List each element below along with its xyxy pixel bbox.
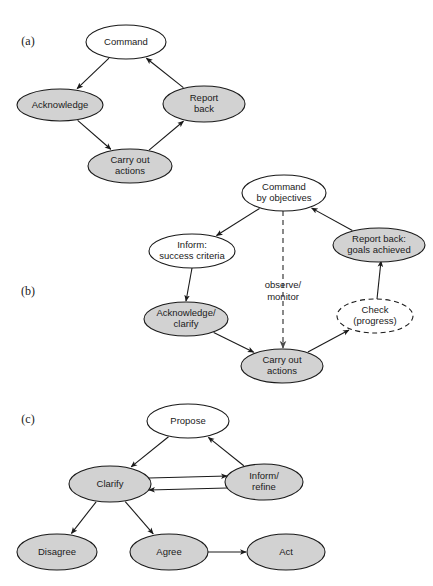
node-label: actions: [115, 165, 145, 176]
node-label: Clarify: [97, 478, 124, 489]
edge-b-report-to-b-command: [312, 208, 353, 230]
edge-c-inform-to-c-propose: [208, 437, 243, 465]
edge-b-inform-to-b-acknow: [186, 268, 192, 301]
node-a-carry[interactable]: Carry outactions: [88, 149, 172, 183]
node-label: back: [194, 103, 214, 114]
node-c-disagree[interactable]: Disagree: [17, 534, 97, 570]
node-b-report[interactable]: Report back:goals achieved: [333, 228, 425, 262]
node-label: Propose: [170, 415, 205, 426]
node-label: Command: [104, 36, 148, 47]
edge-c-inform-to-c-clarify: [149, 488, 227, 490]
node-b-acknow[interactable]: Acknowledge/clarify: [144, 302, 228, 336]
diagram-root: observe/monitor CommandAcknowledgeReport…: [0, 0, 433, 586]
node-c-act[interactable]: Act: [247, 534, 325, 570]
node-b-carry[interactable]: Carry outactions: [241, 349, 323, 383]
node-label: by objectives: [257, 192, 312, 203]
panel-label-b: (b): [21, 284, 35, 298]
node-a-report[interactable]: Reportback: [163, 86, 245, 122]
edge-c-clarify-to-c-disagree: [71, 502, 96, 534]
node-b-command[interactable]: Commandby objectives: [242, 175, 326, 211]
node-label: Command: [262, 181, 306, 192]
edge-b-acknow-to-b-carry: [214, 333, 254, 353]
node-c-inform[interactable]: Inform/refine: [225, 464, 303, 500]
node-b-inform[interactable]: Inform:success criteria: [149, 234, 235, 268]
edge-a-carry-to-a-report: [149, 121, 183, 150]
node-label: success criteria: [159, 250, 225, 261]
node-label: clarify: [174, 318, 199, 329]
edge-b-command-to-b-inform: [217, 208, 260, 235]
edge-label-line: monitor: [267, 291, 299, 302]
edge-label-b-e7: observe/monitor: [265, 279, 302, 302]
edge-a-report-to-a-command: [146, 58, 183, 87]
node-a-command[interactable]: Command: [86, 25, 166, 59]
node-label: Report: [190, 92, 219, 103]
diagram-canvas: observe/monitor CommandAcknowledgeReport…: [0, 0, 433, 586]
edge-a-command-to-a-acknowledge: [77, 58, 109, 88]
node-label: Inform:: [177, 239, 207, 250]
node-c-clarify[interactable]: Clarify: [69, 466, 151, 502]
node-label: (progress): [353, 315, 396, 326]
node-label: Acknowledge: [32, 99, 89, 110]
edge-c-clarify-to-c-agree: [125, 502, 153, 534]
node-label: Inform/: [249, 470, 279, 481]
node-label: goals achieved: [347, 244, 410, 255]
edge-c-clarify-to-c-inform: [149, 476, 227, 478]
node-b-check[interactable]: Check(progress): [337, 299, 413, 333]
node-c-agree[interactable]: Agree: [130, 534, 208, 570]
node-c-propose[interactable]: Propose: [147, 404, 229, 438]
node-label: Act: [279, 546, 293, 557]
node-label: Disagree: [38, 546, 76, 557]
node-label: Agree: [156, 546, 181, 557]
node-label: Carry out: [262, 354, 301, 365]
node-label: refine: [252, 481, 276, 492]
edge-b-carry-to-b-check: [308, 330, 349, 352]
node-label: Check: [362, 304, 389, 315]
edge-a-acknowledge-to-a-carry: [78, 120, 111, 149]
panel-label-a: (a): [21, 34, 34, 48]
edge-b-check-to-b-report: [377, 261, 381, 299]
node-label: Acknowledge/: [156, 307, 216, 318]
edge-label-line: observe/: [265, 279, 302, 290]
node-label: Carry out: [110, 154, 149, 165]
node-label: actions: [267, 365, 297, 376]
node-a-acknowledge[interactable]: Acknowledge: [17, 89, 103, 121]
node-label: Report back:: [352, 233, 406, 244]
panel-label-c: (c): [21, 412, 34, 426]
edge-c-propose-to-c-clarify: [131, 437, 168, 467]
